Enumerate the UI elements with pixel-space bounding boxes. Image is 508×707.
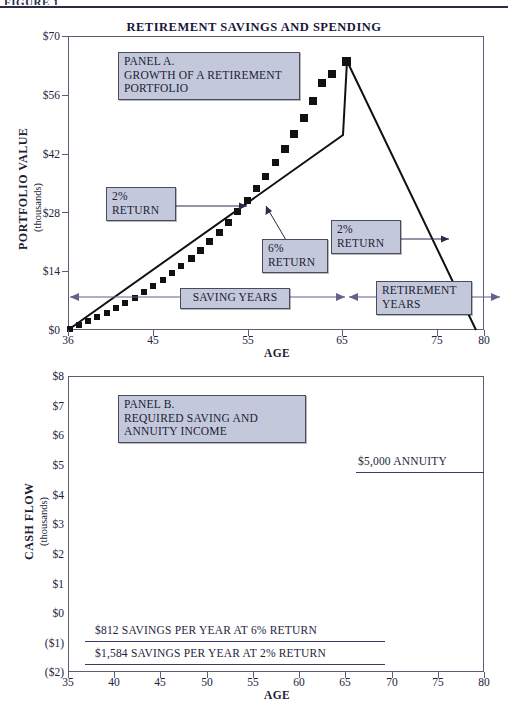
annuity-label: $5,000 ANNUITY	[358, 455, 447, 467]
panel-b-title-callout: PANEL B. REQUIRED SAVING AND ANNUITY INC…	[118, 395, 306, 443]
panel-b-xtick-55: 55	[239, 676, 267, 688]
panel-b-ytick-5: $5	[26, 459, 64, 471]
panel-b-xtick-50: 50	[193, 676, 221, 688]
panel-b-xtick-65: 65	[331, 676, 359, 688]
saving-6pct-label: $812 SAVINGS PER YEAR AT 6% RETURN	[95, 624, 317, 636]
panel-b-xtick-75: 75	[424, 676, 452, 688]
panel-b-ytick-6: $6	[26, 429, 64, 441]
panel-b-xtick-45: 45	[146, 676, 174, 688]
panel-b-x-axis-title: AGE	[264, 689, 290, 701]
panel-b-ytick-neg1: ($1)	[22, 637, 64, 649]
panel-b-xtick-70: 70	[378, 676, 406, 688]
annuity-line	[356, 472, 484, 473]
panel-b-xtick-35: 35	[54, 676, 82, 688]
panel-b-ytick-7: $7	[26, 400, 64, 412]
panel-b-xtick-60: 60	[285, 676, 313, 688]
panel-b-ytick-0: $0	[26, 607, 64, 619]
panel-b-ytick-4: $4	[26, 489, 64, 501]
panel-b-xtick-80: 80	[470, 676, 498, 688]
panel-b: CASH FLOW (thousands) $8 $7 $6 $5 $4 $3 …	[0, 0, 508, 707]
panel-b-ytick-2: $2	[26, 548, 64, 560]
panel-b-xtick-40: 40	[100, 676, 128, 688]
saving-2pct-line	[85, 664, 385, 665]
saving-6pct-line	[85, 641, 385, 642]
saving-2pct-label: $1,584 SAVINGS PER YEAR AT 2% RETURN	[95, 647, 326, 659]
panel-b-ytick-1: $1	[26, 578, 64, 590]
panel-b-ytick-8: $8	[26, 370, 64, 382]
panel-b-ytick-3: $3	[26, 518, 64, 530]
